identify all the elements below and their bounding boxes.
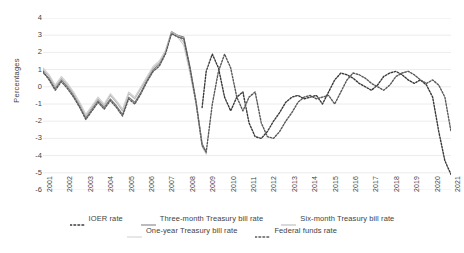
y-axis-tick-labels: 43210-1-2-3-4-5-6 [24, 0, 42, 200]
plot-area [43, 18, 451, 190]
legend-item[interactable]: IOER rate [70, 214, 123, 223]
y-tick-label: -2 [35, 117, 42, 125]
x-tick-label: 2011 [250, 177, 257, 192]
x-tick-label: 2004 [107, 176, 114, 192]
y-tick-label: 1 [38, 66, 42, 74]
x-tick-label: 2012 [270, 176, 277, 192]
legend-key-icon [127, 227, 142, 235]
y-tick-label: -5 [35, 169, 42, 177]
x-tick-label: 2002 [66, 176, 73, 192]
legend-item[interactable]: One-year Treasury bill rate [127, 226, 237, 235]
y-tick-label: 2 [38, 48, 42, 56]
x-tick-label: 2013 [291, 176, 298, 192]
series-line [43, 33, 206, 153]
x-tick-label: 2017 [372, 176, 379, 192]
y-tick-label: -1 [35, 100, 42, 108]
x-tick-label: 2019 [413, 176, 420, 192]
legend-item[interactable]: Six-month Treasury bill rate [281, 214, 394, 223]
legend-key-icon [70, 215, 85, 223]
series-line [43, 33, 451, 152]
series-line [43, 32, 206, 154]
y-tick-label: -3 [35, 134, 42, 142]
chart-legend: IOER rateThree-month Treasury bill rateS… [0, 214, 464, 235]
x-tick-label: 2008 [189, 176, 196, 192]
x-tick-label: 2005 [128, 176, 135, 192]
x-tick-label: 2021 [454, 176, 461, 192]
legend-item[interactable]: Three-month Treasury bill rate [141, 214, 263, 223]
x-tick-label: 2006 [148, 176, 155, 192]
chart-root: Percentages 43210-1-2-3-4-5-6 2001200220… [0, 0, 464, 253]
legend-key-icon [255, 227, 270, 235]
x-tick-label: 2009 [209, 176, 216, 192]
x-tick-label: 2010 [230, 176, 237, 192]
y-tick-label: 3 [38, 31, 42, 39]
x-tick-label: 2020 [434, 176, 441, 192]
legend-row: One-year Treasury bill rateFederal funds… [118, 226, 346, 235]
x-tick-label: 2016 [352, 176, 359, 192]
x-tick-label: 2014 [311, 176, 318, 192]
y-tick-label: -6 [35, 186, 42, 194]
y-tick-label: 4 [38, 14, 42, 22]
x-axis-tick-labels: 2001200220032004200520062007200820092010… [43, 190, 451, 216]
x-tick-label: 2015 [332, 176, 339, 192]
x-tick-label: 2003 [87, 176, 94, 192]
chart-svg [43, 18, 451, 190]
x-tick-label: 2001 [46, 176, 53, 192]
x-tick-label: 2018 [393, 176, 400, 192]
legend-label: Six-month Treasury bill rate [300, 214, 394, 223]
legend-label: Federal funds rate [274, 226, 337, 235]
legend-key-icon [281, 215, 296, 223]
legend-key-icon [141, 215, 156, 223]
y-tick-label: 0 [38, 83, 42, 91]
legend-label: Three-month Treasury bill rate [160, 214, 263, 223]
y-tick-label: -4 [35, 152, 42, 160]
legend-label: IOER rate [89, 214, 123, 223]
series-line [202, 54, 451, 174]
legend-item[interactable]: Federal funds rate [255, 226, 337, 235]
legend-row: IOER rateThree-month Treasury bill rateS… [61, 214, 404, 223]
legend-label: One-year Treasury bill rate [146, 226, 237, 235]
y-axis-title: Percentages [12, 41, 21, 121]
series-line [43, 32, 206, 152]
x-tick-label: 2007 [168, 176, 175, 192]
